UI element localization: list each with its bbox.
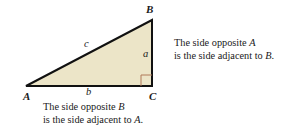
- caption-bottom-line-2-text: is the side adjacent to: [43, 114, 134, 125]
- caption-bottom-line-1-variable: B: [118, 101, 124, 112]
- side-label-vertical-a: a: [143, 49, 148, 60]
- caption-right-line-2-text: is the side adjacent to: [174, 50, 265, 61]
- triangle-shape: [26, 20, 152, 86]
- vertex-label-b: B: [146, 4, 153, 15]
- side-label-hypotenuse-c: c: [84, 39, 89, 50]
- caption-bottom: The side opposite B is the side adjacent…: [43, 100, 143, 126]
- vertex-label-a: A: [23, 91, 30, 102]
- caption-right-line-2-period: .: [272, 50, 275, 61]
- caption-bottom-line-2-period: .: [141, 114, 144, 125]
- side-label-horizontal-b: b: [86, 87, 91, 98]
- caption-right-line-2: is the side adjacent to B.: [174, 49, 274, 62]
- caption-right: The side opposite A is the side adjacent…: [174, 36, 274, 62]
- caption-bottom-line-1-text: The side opposite: [43, 101, 118, 112]
- right-triangle-figure: B A C c a b The side opposite A is the s…: [0, 0, 285, 133]
- caption-bottom-line-1: The side opposite B: [43, 100, 143, 113]
- caption-right-line-1-text: The side opposite: [174, 37, 249, 48]
- vertex-label-c: C: [149, 91, 156, 102]
- caption-bottom-line-2: is the side adjacent to A.: [43, 113, 143, 126]
- caption-right-line-1-variable: A: [249, 37, 255, 48]
- caption-right-line-1: The side opposite A: [174, 36, 274, 49]
